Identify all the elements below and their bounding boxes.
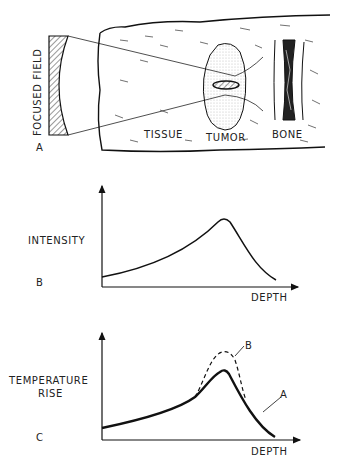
diagram-canvas: FOCUSED FIELD A TISSUE TUMOR BONE INTENS… [0, 0, 339, 468]
curve-a-pointer [263, 397, 281, 412]
focused-field-label: FOCUSED FIELD [32, 48, 43, 136]
transducer-focused-field [49, 36, 68, 135]
bone-shape [274, 40, 304, 120]
tissue-label: TISSUE [143, 129, 183, 140]
tumor-label: TUMOR [205, 132, 246, 143]
rise-label: RISE [38, 388, 63, 399]
intensity-label: INTENSITY [28, 235, 86, 246]
curve-b-pointer [235, 346, 244, 356]
curve-a-label: A [280, 389, 287, 400]
panel-a-illustration: FOCUSED FIELD A TISSUE TUMOR BONE [32, 15, 330, 153]
depth-label-c: DEPTH [251, 446, 288, 457]
panel-c-letter: C [36, 432, 44, 443]
panel-a-letter: A [36, 142, 43, 153]
temperature-label: TEMPERATURE [8, 375, 88, 386]
panel-c-temperature-chart: B A TEMPERATURE RISE C DEPTH [8, 333, 300, 457]
bone-label: BONE [272, 129, 303, 140]
curve-b-label: B [245, 340, 252, 351]
focal-zone [213, 81, 239, 89]
panel-b-intensity-chart: INTENSITY B DEPTH [28, 186, 298, 303]
panel-b-letter: B [36, 277, 43, 288]
depth-label-b: DEPTH [251, 292, 288, 303]
curve-a-solid [102, 370, 275, 437]
intensity-curve [102, 219, 276, 280]
